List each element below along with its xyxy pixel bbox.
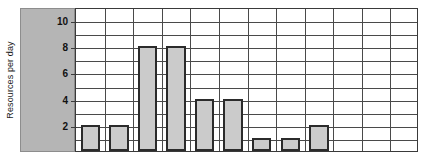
y-axis-tick-label: 2 bbox=[28, 122, 68, 132]
y-axis-tick-mark bbox=[71, 22, 77, 23]
bar-series bbox=[76, 9, 417, 151]
y-axis-tick-mark bbox=[71, 101, 77, 102]
bar bbox=[252, 138, 271, 151]
bar bbox=[281, 138, 300, 151]
y-axis-tick-mark bbox=[71, 127, 77, 128]
bar-chart: Resources per day 246810 bbox=[0, 0, 425, 159]
bar bbox=[223, 99, 242, 151]
y-axis-label-panel: 246810 bbox=[20, 8, 75, 152]
bar bbox=[309, 125, 328, 151]
y-axis-tick-label: 4 bbox=[28, 96, 68, 106]
y-axis-tick-mark bbox=[71, 74, 77, 75]
bar bbox=[166, 46, 185, 151]
bar bbox=[138, 46, 157, 151]
bar bbox=[81, 125, 100, 151]
y-axis-tick-label: 6 bbox=[28, 69, 68, 79]
y-axis-tick-label: 10 bbox=[28, 17, 68, 27]
y-axis-title-container: Resources per day bbox=[0, 8, 20, 152]
y-axis-tick-mark bbox=[71, 48, 77, 49]
plot-area bbox=[75, 8, 418, 152]
y-axis-title: Resources per day bbox=[0, 8, 20, 152]
y-axis-tick-label: 8 bbox=[28, 43, 68, 53]
bar bbox=[195, 99, 214, 151]
bar bbox=[109, 125, 128, 151]
